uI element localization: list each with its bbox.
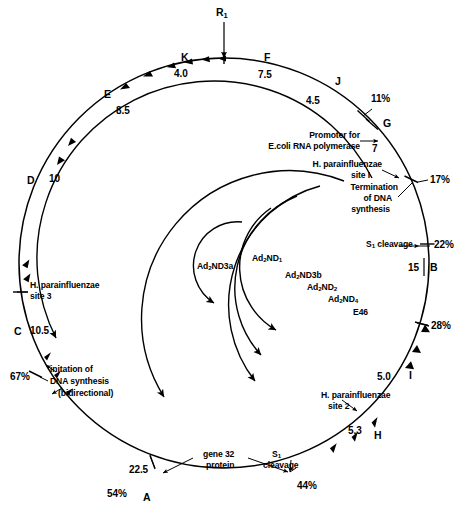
- percent-label-28: 28%: [431, 320, 451, 332]
- pct-67-leader: [40, 377, 48, 381]
- gene-value-H: 5.3: [348, 425, 362, 437]
- annotation-hpi-site1-line1: H. parainfluenzae: [258, 160, 382, 170]
- inner-arc-label-ad2nd3a: Ad2ND3a: [197, 262, 233, 272]
- gene-value-G: 7: [372, 143, 377, 155]
- percent-label-67: 67%: [10, 371, 30, 383]
- origin-label-R: R1: [216, 6, 228, 20]
- percent-label-17: 17%: [430, 174, 450, 186]
- gene-label-D: D: [27, 174, 34, 186]
- circular-map-graphic: [0, 0, 469, 519]
- gene-label-I: I: [409, 369, 412, 381]
- annotation-s1-cleavage-bottom-line1: S1: [272, 450, 281, 460]
- figure-canvas: R1 K 4.0 F 7.5 J 4.5 11% G 7 Promoter fo…: [0, 0, 469, 519]
- gene-label-K: K: [181, 51, 188, 63]
- annotation-hpi-site2-line2: site 2: [328, 402, 349, 412]
- gene-value-C: 10.5: [30, 325, 49, 337]
- pct-11-leader: [363, 109, 372, 116]
- gene-value-E: 8.5: [116, 105, 130, 117]
- pct-17-leader: [418, 180, 428, 182]
- gene-value-J: 4.5: [306, 95, 320, 107]
- inner-arc-label-ad2nd4: Ad2ND4: [328, 295, 358, 305]
- annotation-gene32-line1: gene 32: [203, 450, 234, 460]
- inner-arc-group: [37, 81, 372, 397]
- gene-label-H: H: [374, 429, 381, 441]
- inner-arc-label-ad2nd3b: Ad2ND3b: [285, 271, 322, 281]
- annotation-promoter-line1: Promoter for: [238, 131, 360, 141]
- gene-label-E: E: [104, 88, 111, 100]
- gene-value-K: 4.0: [174, 68, 188, 80]
- gene-value-A: 22.5: [129, 464, 148, 476]
- gene-value-D: 10: [49, 173, 60, 185]
- percent-label-54: 54%: [107, 488, 127, 500]
- hpi-site-1-leader: [382, 170, 399, 178]
- termination-leader: [398, 183, 412, 197]
- gene-value-B: 15: [408, 262, 419, 274]
- gene-value-I: 5.0: [377, 371, 391, 383]
- gene-label-G: G: [383, 117, 391, 129]
- gene-label-J: J: [335, 75, 341, 87]
- s1-bottom-subscript: 1: [278, 452, 281, 459]
- annotation-s1-cleavage-bottom-line2: cleavage: [263, 461, 299, 471]
- s1-right-cleavage-word: cleavage: [377, 239, 413, 249]
- gene-label-C: C: [14, 325, 21, 337]
- annotation-hpi-site3-line1: H. parainfluenzae: [30, 281, 99, 291]
- annotation-gene32-line2: protein: [206, 461, 234, 471]
- annotation-hpi-site2-line1: H. parainfluenzae: [321, 391, 390, 401]
- gene-label-A: A: [143, 491, 150, 503]
- percent-label-44: 44%: [297, 480, 317, 492]
- annotation-hpi-site1-line2: site I: [258, 171, 370, 181]
- inner-arc-label-ad2nd1: Ad2ND1: [252, 254, 282, 264]
- gene-label-F: F: [264, 51, 270, 63]
- inner-arc-label-e46: E46: [353, 308, 368, 318]
- annotation-initiation-line2: DNA synthesis: [50, 377, 109, 387]
- annotation-s1-cleavage-right: S1 cleavage: [366, 240, 413, 250]
- annotation-hpi-site3-line2: site 3: [30, 292, 51, 302]
- gene-label-B: B: [430, 261, 437, 273]
- a-22-5-leader: [150, 456, 155, 468]
- annotation-termination-line2: of DNA: [288, 194, 392, 204]
- origin-label-R-sub: 1: [223, 11, 227, 20]
- percent-label-11: 11%: [371, 93, 390, 105]
- annotation-termination-line1: Termination: [288, 183, 398, 193]
- annotation-termination-line3: synthesis: [288, 205, 390, 215]
- annotation-initiation-line1: initation of: [50, 365, 93, 375]
- annotation-promoter-line2: E.coli RNA polymerase: [218, 142, 360, 152]
- gene-value-F: 7.5: [258, 69, 272, 81]
- annotation-initiation-line3: (bidirectional): [58, 389, 113, 399]
- inner-arc-label-ad2nd2: Ad2ND2: [307, 283, 337, 293]
- percent-label-22: 22%: [434, 239, 454, 251]
